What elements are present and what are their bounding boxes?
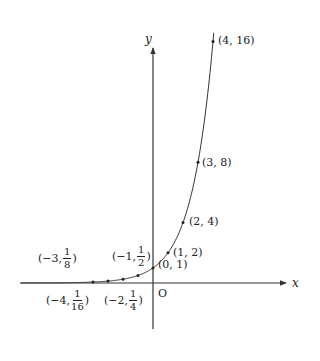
data-point	[212, 40, 215, 43]
data-point	[92, 281, 95, 284]
origin-label: O	[158, 288, 167, 299]
data-point	[152, 266, 155, 269]
point-label: (2, 4)	[189, 216, 219, 227]
point-label: (−3,18)	[38, 247, 77, 270]
point-label: (1, 2)	[173, 247, 203, 258]
point-label: (−2,14)	[104, 289, 143, 312]
point-label: (3, 8)	[202, 157, 232, 168]
data-point	[197, 161, 200, 164]
point-label: (0, 1)	[158, 259, 188, 270]
data-point	[137, 274, 140, 277]
y-axis-label: y	[145, 33, 152, 45]
point-label: (−4,116)	[46, 289, 89, 312]
data-point	[182, 221, 185, 224]
data-point	[107, 280, 110, 283]
data-point	[122, 278, 125, 281]
data-point	[167, 251, 170, 254]
point-label: (−1,12)	[112, 245, 151, 268]
point-label: (4, 16)	[218, 35, 255, 46]
x-axis-label: x	[292, 277, 299, 289]
